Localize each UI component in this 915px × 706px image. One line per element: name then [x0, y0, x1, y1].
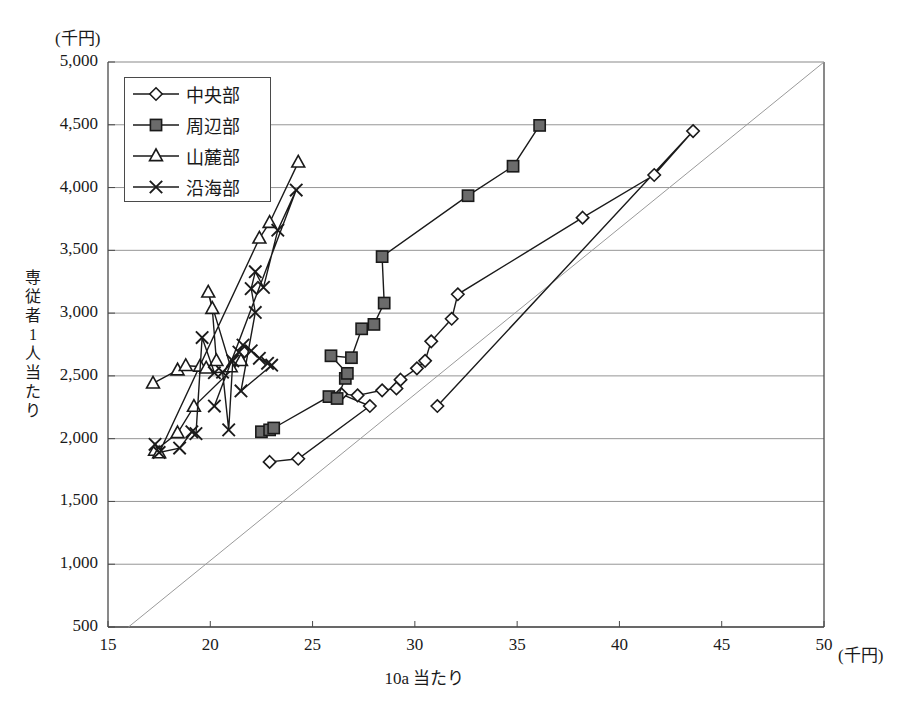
x-tick-label: 30 — [385, 635, 445, 655]
legend-marker-icon — [131, 146, 181, 166]
data-point-square — [268, 422, 279, 433]
data-point-square — [507, 161, 518, 172]
data-point-diamond — [364, 400, 376, 412]
data-point-square — [379, 297, 390, 308]
y-tick-label: 2,500 — [30, 365, 98, 385]
x-tick-label: 15 — [78, 635, 138, 655]
data-point-square — [150, 119, 161, 130]
legend-item-diamond-open[interactable]: 中央部 — [125, 78, 270, 109]
data-point-diamond — [452, 288, 464, 300]
x-tick-label: 20 — [180, 635, 240, 655]
data-point-triangle — [147, 376, 160, 388]
legend-item-label: 中央部 — [186, 81, 240, 107]
y-tick-label: 5,000 — [30, 51, 98, 71]
y-tick-label: 500 — [30, 616, 98, 636]
legend-item-label: 周辺部 — [186, 112, 240, 138]
y-tick-label: 4,000 — [30, 177, 98, 197]
data-point-square — [332, 393, 343, 404]
y-tick-label: 2,000 — [30, 428, 98, 448]
y-tick-label: 3,500 — [30, 239, 98, 259]
data-point-square — [342, 368, 353, 379]
data-point-square — [534, 120, 545, 131]
series-diamond-open — [263, 125, 699, 468]
data-point-square — [356, 323, 367, 334]
data-point-triangle — [171, 426, 184, 438]
data-point-triangle — [206, 302, 219, 314]
legend-item-square-filled[interactable]: 周辺部 — [125, 109, 270, 140]
data-point-triangle — [292, 155, 305, 167]
data-point-triangle — [253, 231, 266, 243]
data-point-diamond — [150, 87, 162, 99]
data-point-diamond — [263, 456, 275, 468]
data-point-triangle — [150, 149, 163, 161]
x-tick-label: 35 — [487, 635, 547, 655]
data-point-square — [325, 350, 336, 361]
y-tick-label: 3,000 — [30, 302, 98, 322]
legend-item-triangle-open[interactable]: 山麓部 — [125, 140, 270, 171]
data-point-triangle — [202, 285, 215, 297]
series-cross-x — [149, 184, 303, 459]
legend-item-label: 沿海部 — [186, 174, 240, 200]
legend: 中央部周辺部山麓部沿海部 — [124, 77, 271, 202]
legend-marker-icon — [131, 84, 181, 104]
x-tick-label: 25 — [283, 635, 343, 655]
legend-item-label: 山麓部 — [186, 143, 240, 169]
legend-marker-icon — [131, 177, 181, 197]
x-tick-label: 40 — [589, 635, 649, 655]
x-tick-label: 45 — [692, 635, 752, 655]
data-point-square — [368, 319, 379, 330]
data-point-triangle — [179, 359, 192, 371]
series-line — [270, 131, 693, 462]
series-line — [153, 162, 298, 453]
legend-marker-icon — [131, 115, 181, 135]
data-point-diamond — [376, 384, 388, 396]
legend-item-cross-x[interactable]: 沿海部 — [125, 171, 270, 202]
data-point-diamond — [576, 211, 588, 223]
y-tick-label: 1,500 — [30, 490, 98, 510]
data-point-square — [377, 251, 388, 262]
scatter-chart-figure: (千円) (千円) 専従者1人当たり 10a 当たり 中央部周辺部山麓部沿海部 … — [0, 0, 915, 706]
series-line — [155, 190, 296, 452]
data-point-square — [462, 190, 473, 201]
y-tick-label: 4,500 — [30, 114, 98, 134]
y-tick-label: 1,000 — [30, 553, 98, 573]
x-tick-label: 50 — [794, 635, 854, 655]
data-point-square — [346, 352, 357, 363]
data-point-diamond — [292, 453, 304, 465]
